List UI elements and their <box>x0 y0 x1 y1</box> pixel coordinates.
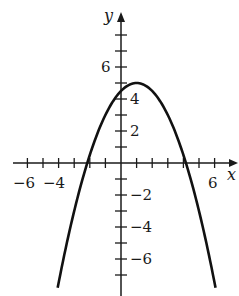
y-axis <box>115 12 127 296</box>
y-tick-label-neg6: −6 <box>130 250 152 268</box>
y-tick-label-2: 2 <box>130 122 140 140</box>
x-axis <box>13 158 238 168</box>
x-axis-label: x <box>227 165 236 184</box>
y-tick-label-neg4: −4 <box>130 218 152 236</box>
x-tick-label-neg4: −4 <box>43 174 65 192</box>
parabola-graph: y x −6 −4 6 6 4 2 −2 −4 −6 <box>0 0 239 296</box>
x-tick-label-6: 6 <box>208 174 218 192</box>
y-axis-label: y <box>103 6 114 25</box>
y-tick-label-6: 6 <box>101 58 111 76</box>
y-axis-arrow-icon <box>117 12 125 22</box>
x-tick-label-neg6: −6 <box>13 174 35 192</box>
y-tick-label-4: 4 <box>130 90 140 108</box>
y-tick-label-neg2: −2 <box>130 186 152 204</box>
